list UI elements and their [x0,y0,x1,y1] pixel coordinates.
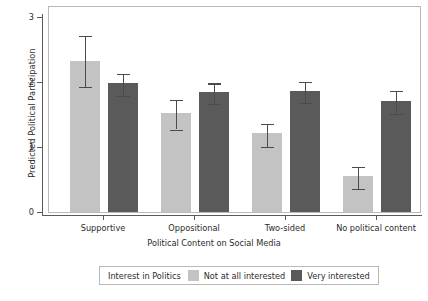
error-bar-line [214,83,215,103]
bar-oppositional-very-interested [199,92,229,212]
bar-supportive-very-interested [108,83,138,212]
error-bar-line [358,167,359,190]
y-tick-label-1: 1 [10,143,34,151]
y-tick-0 [37,212,42,213]
x-axis-title: Political Content on Social Media [0,238,428,248]
error-bar-cap-upper [261,124,274,125]
x-tick-0 [103,215,104,220]
error-bar-cap-upper [208,83,221,84]
legend-swatch-icon-light [188,270,199,281]
y-tick-label-2: 2 [10,78,34,86]
plot-panel [48,6,421,213]
y-tick-2 [37,82,42,83]
legend-label-not-at-all-interested: Not at all interested [204,271,286,281]
error-bar-line [267,124,268,147]
error-bar-cap-lower [299,103,312,104]
error-bar-cap-lower [261,147,274,148]
error-bar-cap-lower [208,104,221,105]
chart-figure: Predicted Political Participation 0 1 2 … [0,0,428,301]
y-tick-label-3: 3 [10,13,34,21]
x-tick-label-no-political-content: No political content [336,223,416,233]
y-tick-1 [37,147,42,148]
error-bar-line [123,74,124,96]
bars-layer [49,7,420,212]
bar-two-sided-very-interested [290,91,320,212]
x-axis-line [42,215,422,216]
legend-title: Interest in Politics [108,271,181,281]
bar-no-political-content-very-interested [381,101,411,212]
legend-label-very-interested: Very interested [307,271,369,281]
error-bar-cap-lower [79,87,92,88]
y-axis-line [42,14,43,215]
error-bar-cap-lower [352,189,365,190]
legend-item-very-interested[interactable]: Very interested [291,270,369,281]
legend-swatch-icon-dark [291,270,302,281]
error-bar-cap-lower [390,114,403,115]
error-bar-line [396,91,397,114]
x-tick-label-two-sided: Two-sided [265,223,305,233]
y-tick-label-0: 0 [10,208,34,216]
y-axis-title: Predicted Political Participation [27,13,37,213]
y-tick-3 [37,17,42,18]
error-bar-cap-upper [390,91,403,92]
legend: Interest in Politics Not at all interest… [99,266,379,285]
error-bar-cap-lower [170,130,183,131]
error-bar-cap-upper [299,82,312,83]
error-bar-line [85,36,86,87]
error-bar-cap-lower [117,96,130,97]
error-bar-cap-upper [170,100,183,101]
x-tick-3 [376,215,377,220]
error-bar-line [305,82,306,103]
x-tick-label-supportive: Supportive [81,223,126,233]
error-bar-cap-upper [117,74,130,75]
error-bar-cap-upper [352,167,365,168]
legend-item-not-at-all-interested[interactable]: Not at all interested [188,270,286,281]
error-bar-line [176,100,177,130]
x-tick-1 [194,215,195,220]
x-tick-label-oppositional: Oppositional [168,223,219,233]
x-tick-2 [285,215,286,220]
error-bar-cap-upper [79,36,92,37]
